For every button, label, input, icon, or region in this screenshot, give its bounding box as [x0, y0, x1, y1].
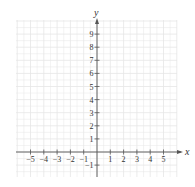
x-axis-label: x — [184, 146, 190, 157]
x-tick-label: 5 — [162, 155, 166, 164]
y-tick-label: 8 — [90, 43, 94, 52]
y-axis-label: y — [93, 7, 99, 18]
y-tick-label: 3 — [90, 109, 94, 118]
grid-lines — [16, 20, 177, 177]
y-tick-label: 9 — [90, 30, 94, 39]
x-tick-label: 4 — [148, 155, 152, 164]
y-tick-label: 5 — [90, 83, 94, 92]
y-tick-label: 7 — [90, 56, 94, 65]
x-tick-label: −5 — [26, 155, 35, 164]
x-axis-arrow-icon — [177, 150, 183, 154]
y-tick-label: 4 — [90, 96, 94, 105]
y-tick-label: 6 — [90, 69, 94, 78]
x-tick-label: 2 — [122, 155, 126, 164]
coordinate-plane: −5−4−3−2−112345 −1123456789 x y — [0, 0, 195, 187]
axes — [16, 18, 183, 177]
x-tick-label: 3 — [135, 155, 139, 164]
y-tick-label: 1 — [90, 135, 94, 144]
y-tick-label: 2 — [90, 122, 94, 131]
y-tick-label: −1 — [85, 161, 94, 170]
x-tick-label: −4 — [40, 155, 49, 164]
x-tick-label: −3 — [53, 155, 62, 164]
x-tick-label: 1 — [108, 155, 112, 164]
x-tick-label: −2 — [66, 155, 75, 164]
